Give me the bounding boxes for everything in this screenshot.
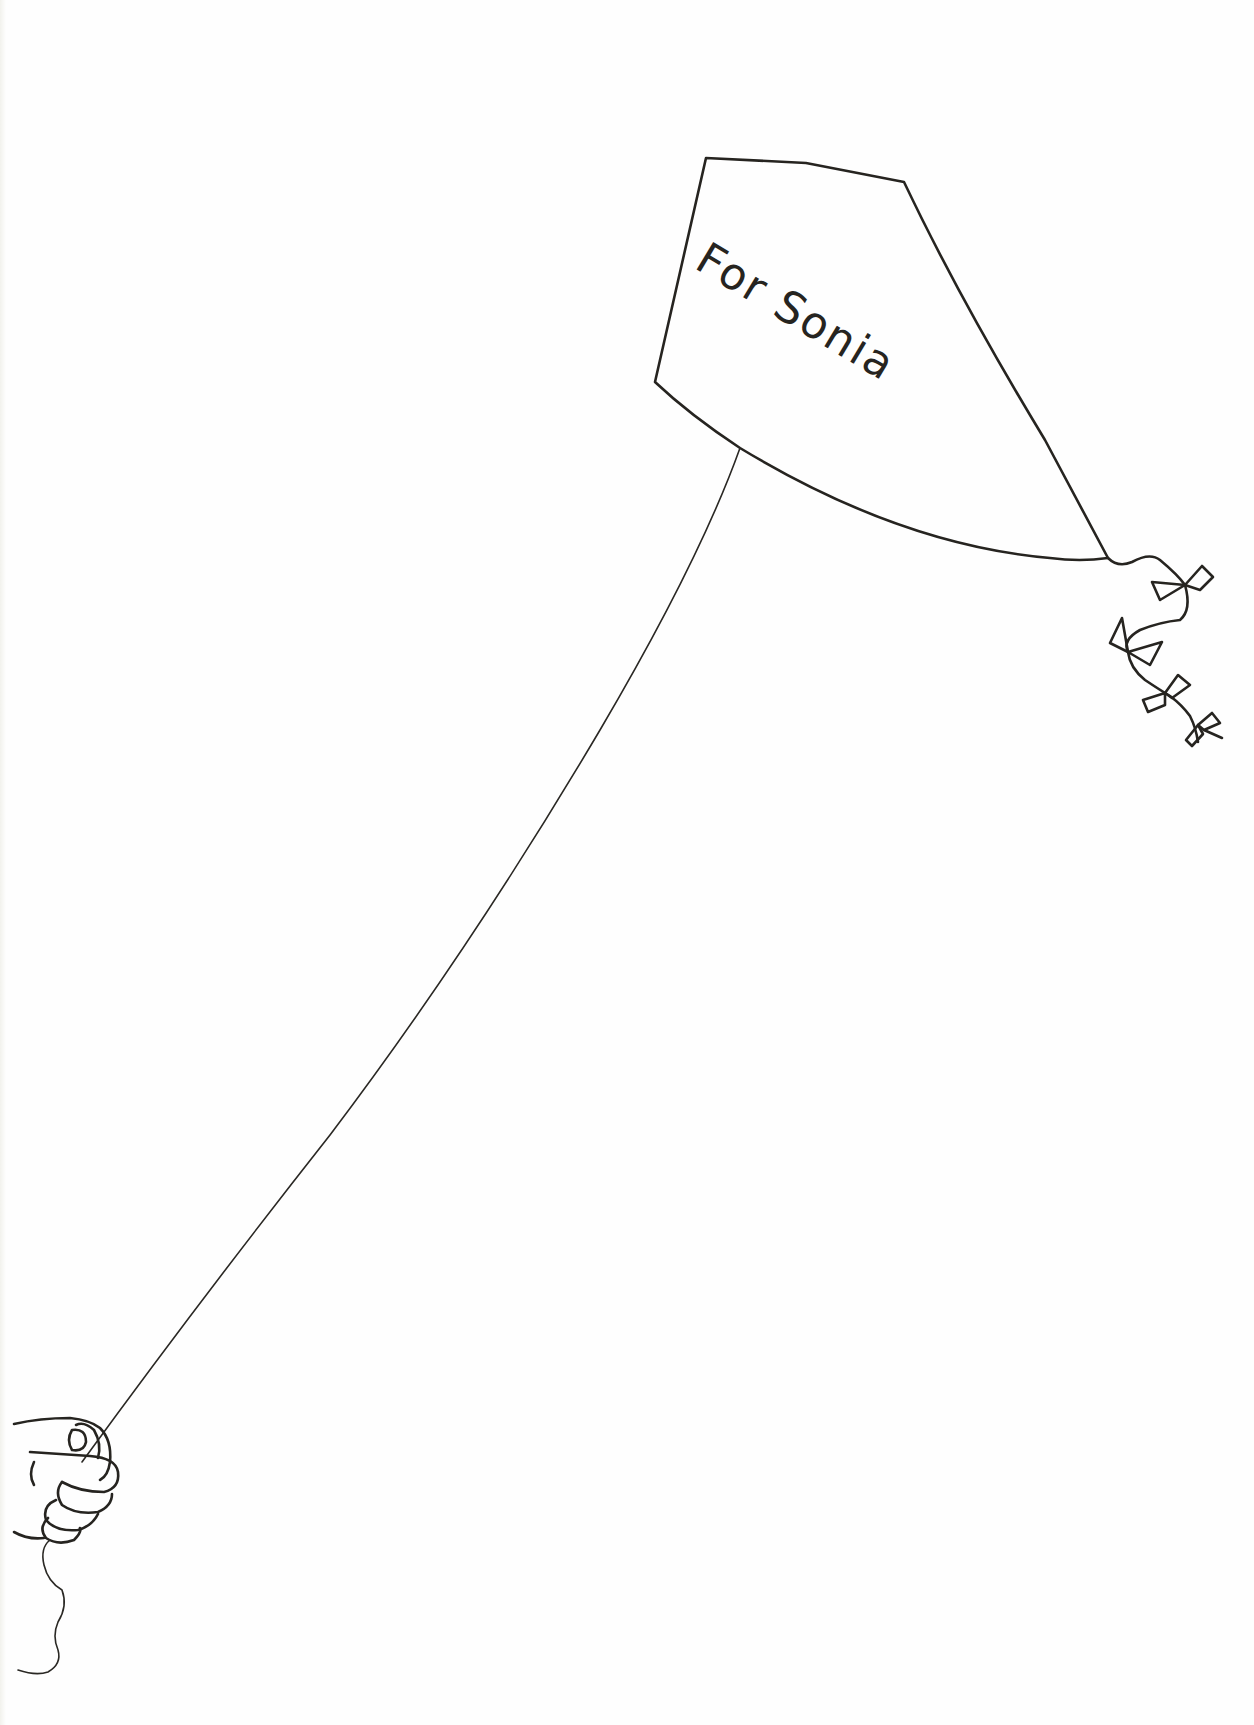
- dedication-page: For Sonia: [0, 0, 1254, 1725]
- kite-string: [82, 448, 740, 1462]
- kite-tail-icon: [1108, 556, 1222, 746]
- hand-icon: [14, 1418, 118, 1674]
- kite-illustration: [0, 0, 1254, 1725]
